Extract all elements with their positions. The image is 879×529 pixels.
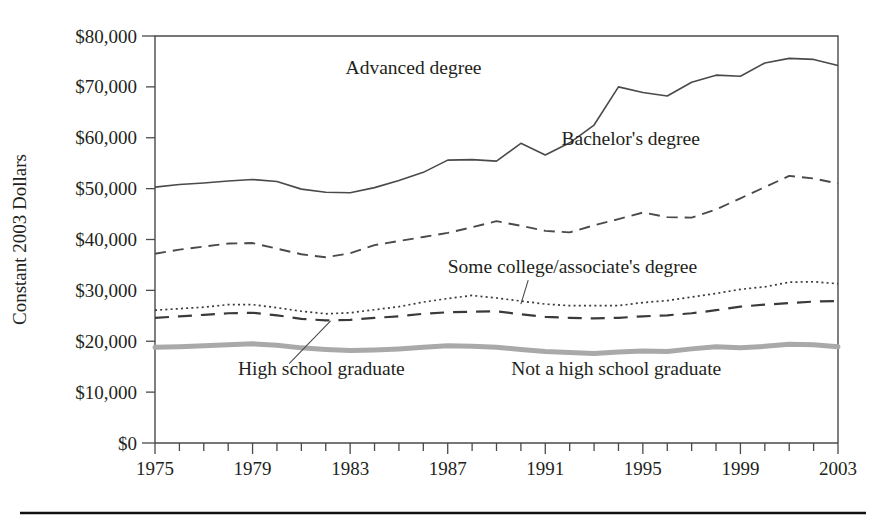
x-tick-label: 1999 (721, 458, 759, 479)
plot-frame (155, 36, 838, 443)
y-tick-label: $0 (118, 433, 137, 454)
y-tick-label: $20,000 (75, 331, 137, 352)
line-chart: Constant 2003 Dollars $0$10,000$20,000$3… (0, 0, 879, 529)
y-tick-label: $70,000 (75, 76, 137, 97)
y-tick-label: $30,000 (75, 280, 137, 301)
x-tick-label: 2003 (819, 458, 857, 479)
series-line-0 (155, 58, 838, 192)
series-lines (155, 58, 838, 353)
x-tick-label: 1995 (624, 458, 662, 479)
series-labels: Advanced degreeBachelor's degreeSome col… (238, 57, 721, 380)
x-tick-label: 1983 (331, 458, 369, 479)
y-axis-title-text: Constant 2003 Dollars (9, 154, 30, 325)
x-tick-label: 1975 (136, 458, 174, 479)
series-line-2 (155, 282, 838, 314)
y-tick-label: $40,000 (75, 229, 137, 250)
series-line-4 (155, 344, 838, 354)
series-line-3 (155, 301, 838, 320)
y-tick-label: $50,000 (75, 178, 137, 199)
chart-figure: Constant 2003 Dollars $0$10,000$20,000$3… (0, 0, 879, 529)
y-tick-label: $60,000 (75, 127, 137, 148)
y-axis-title: Constant 2003 Dollars (9, 154, 30, 325)
x-tick-label: 1987 (429, 458, 467, 479)
series-label-0: Advanced degree (346, 57, 482, 78)
y-tick-label: $10,000 (75, 382, 137, 403)
x-axis-ticks: 19751979198319871991199519992003 (136, 443, 857, 479)
y-axis-ticks: $0$10,000$20,000$30,000$40,000$50,000$60… (75, 26, 155, 454)
series-line-1 (155, 176, 838, 257)
x-tick-label: 1991 (526, 458, 564, 479)
x-tick-label: 1979 (234, 458, 272, 479)
plot-border (155, 36, 838, 443)
leader-line-3 (289, 321, 330, 364)
leader-line-2 (521, 280, 528, 304)
series-label-4: Not a high school graduate (511, 358, 721, 379)
series-label-2: Some college/associate's degree (448, 256, 697, 277)
series-label-1: Bachelor's degree (561, 128, 699, 149)
y-tick-label: $80,000 (75, 26, 137, 47)
series-label-3: High school graduate (238, 358, 405, 379)
